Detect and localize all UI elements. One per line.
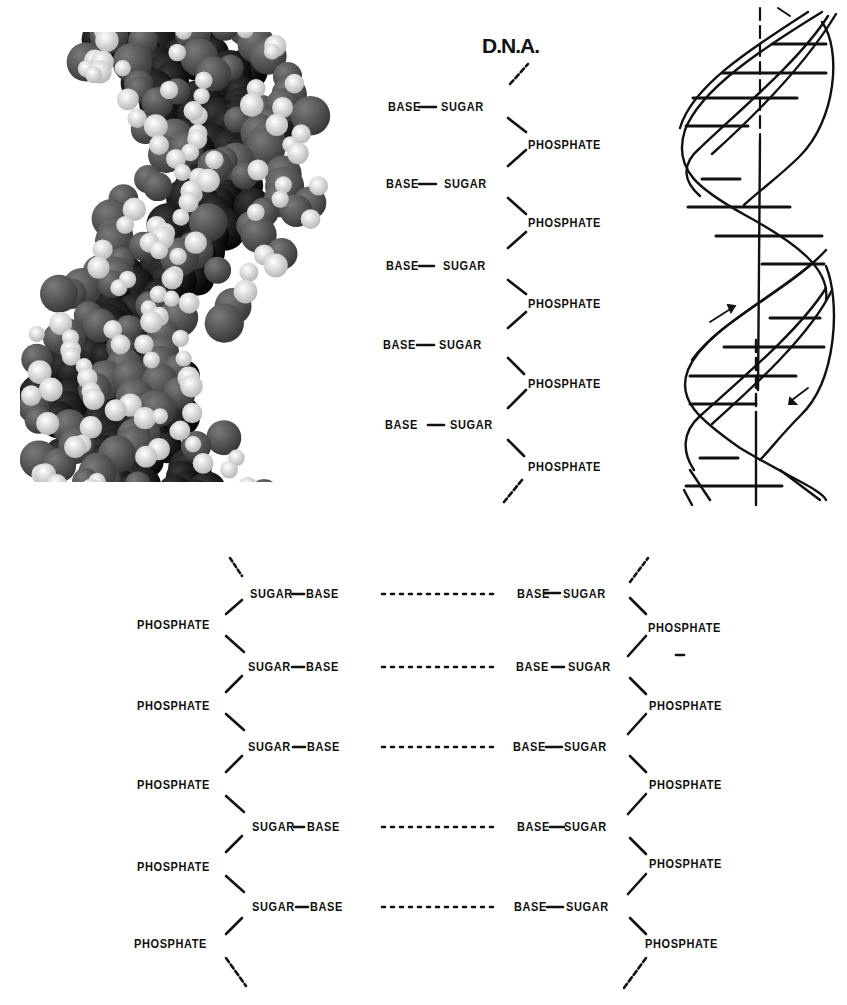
right-base-label: BASE: [517, 586, 550, 600]
left-phosphate-label: PHOSPHATE: [137, 698, 210, 712]
right-sugar-label: SUGAR: [564, 819, 607, 833]
left-base-label: BASE: [307, 819, 340, 833]
right-base-label: BASE: [514, 899, 547, 913]
left-phosphate-label: PHOSPHATE: [137, 859, 210, 873]
left-base-label: BASE: [306, 659, 339, 673]
right-base-label: BASE: [517, 819, 550, 833]
left-phosphate-label: PHOSPHATE: [137, 617, 210, 631]
left-sugar-label: SUGAR: [252, 899, 295, 913]
right-phosphate-label: PHOSPHATE: [645, 936, 718, 950]
right-base-label: BASE: [513, 739, 546, 753]
left-sugar-label: SUGAR: [250, 586, 293, 600]
left-base-label: BASE: [307, 739, 340, 753]
double-strand-bonds: [0, 0, 847, 1005]
left-phosphate-label: PHOSPHATE: [134, 936, 207, 950]
right-sugar-label: SUGAR: [564, 739, 607, 753]
left-sugar-label: SUGAR: [248, 739, 291, 753]
left-base-label: BASE: [306, 586, 339, 600]
right-base-label: BASE: [516, 659, 549, 673]
right-phosphate-label: PHOSPHATE: [649, 777, 722, 791]
right-phosphate-label: PHOSPHATE: [649, 856, 722, 870]
right-phosphate-label: PHOSPHATE: [648, 620, 721, 634]
left-sugar-label: SUGAR: [252, 819, 295, 833]
left-sugar-label: SUGAR: [248, 659, 291, 673]
left-phosphate-label: PHOSPHATE: [137, 777, 210, 791]
right-sugar-label: SUGAR: [568, 659, 611, 673]
right-sugar-label: SUGAR: [566, 899, 609, 913]
right-phosphate-label: PHOSPHATE: [649, 698, 722, 712]
left-base-label: BASE: [310, 899, 343, 913]
right-sugar-label: SUGAR: [563, 586, 606, 600]
